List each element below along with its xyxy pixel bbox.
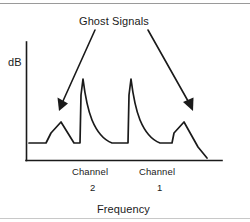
left-arrow-head [58,98,69,112]
channel-1-label: Channel [139,166,175,177]
spectrum-trace [29,79,207,158]
ghost-signals-annotation-label: Ghost Signals [79,15,149,27]
right-arrow-shaft [148,30,188,101]
left-arrow-shaft [63,30,95,101]
channel-2-number: 2 [90,182,95,193]
spectrum-plot [0,0,250,222]
y-axis-label: dB [8,56,22,68]
right-arrow-head [183,98,194,112]
ghost-signals-figure: Ghost Signals dB Channel 2 Channel 1 Fre… [0,0,250,222]
channel-1-number: 1 [157,182,162,193]
annotation-arrows [58,30,194,111]
x-axis-label: Frequency [97,203,150,215]
channel-2-label: Channel [72,166,108,177]
spectrum-curve [29,79,207,158]
